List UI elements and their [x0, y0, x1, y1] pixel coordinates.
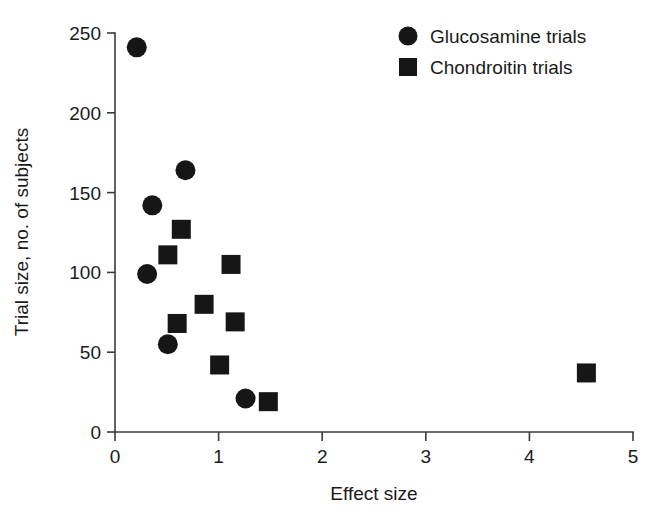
- data-point-glucosamine: [236, 388, 256, 408]
- x-tick-label: 0: [110, 446, 121, 467]
- y-tick-label: 50: [80, 342, 101, 363]
- y-tick-label: 0: [90, 422, 101, 443]
- y-tick-label: 250: [69, 23, 101, 44]
- x-tick-label: 1: [213, 446, 224, 467]
- data-point-chondroitin: [210, 355, 229, 374]
- data-point-glucosamine: [127, 37, 147, 57]
- x-tick-label: 3: [421, 446, 432, 467]
- data-point-chondroitin: [168, 314, 187, 333]
- scatter-plot-figure: 050100150200250 012345 Glucosamine trial…: [0, 0, 661, 521]
- data-point-chondroitin: [222, 255, 241, 274]
- y-tick-label: 150: [69, 183, 101, 204]
- data-point-chondroitin: [172, 220, 191, 239]
- y-axis: 050100150200250: [69, 23, 115, 443]
- data-point-glucosamine: [158, 334, 178, 354]
- chart-legend: Glucosamine trialsChondroitin trials: [399, 26, 587, 78]
- x-tick-label: 4: [524, 446, 535, 467]
- legend-marker-chondroitin: [399, 58, 417, 76]
- data-point-glucosamine: [142, 195, 162, 215]
- x-tick-label: 2: [317, 446, 328, 467]
- data-point-chondroitin: [158, 245, 177, 264]
- plot-canvas: 050100150200250 012345 Glucosamine trial…: [0, 0, 661, 521]
- y-tick-label: 100: [69, 262, 101, 283]
- x-tick-label: 5: [628, 446, 639, 467]
- legend-label-glucosamine: Glucosamine trials: [430, 26, 586, 47]
- x-axis: 012345: [110, 432, 639, 467]
- y-tick-label: 200: [69, 103, 101, 124]
- data-point-glucosamine: [137, 264, 157, 284]
- legend-marker-glucosamine: [399, 27, 418, 46]
- data-point-glucosamine: [175, 160, 195, 180]
- data-points: [127, 37, 596, 411]
- data-point-chondroitin: [577, 363, 596, 382]
- data-point-chondroitin: [226, 312, 245, 331]
- y-axis-title: Trial size, no. of subjects: [11, 128, 32, 336]
- data-point-chondroitin: [259, 392, 278, 411]
- legend-label-chondroitin: Chondroitin trials: [430, 57, 573, 78]
- data-point-chondroitin: [195, 295, 214, 314]
- x-axis-title: Effect size: [330, 483, 417, 504]
